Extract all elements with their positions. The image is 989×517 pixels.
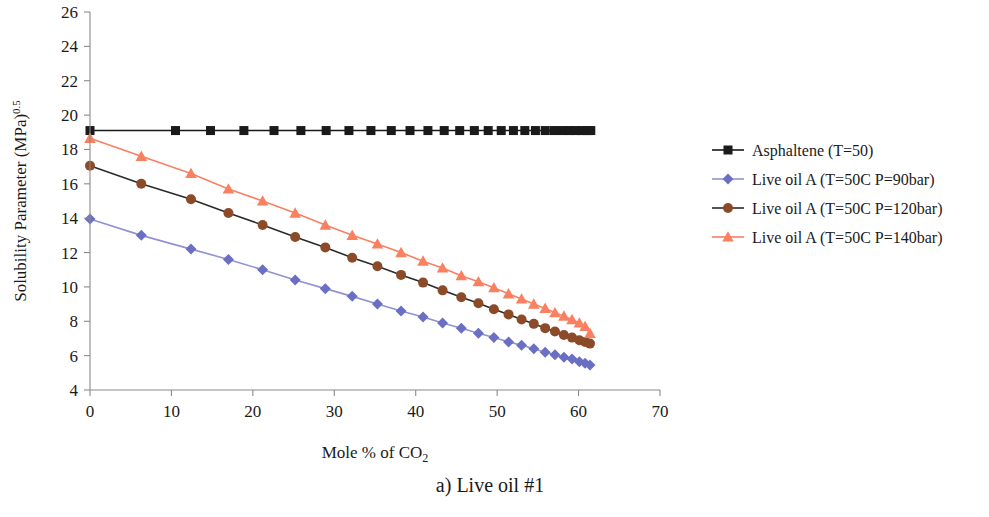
data-point-marker (488, 282, 500, 292)
series-3 (84, 132, 596, 337)
y-tick-label: 24 (61, 37, 79, 56)
data-point-marker (549, 349, 560, 360)
data-point-marker (528, 298, 540, 308)
data-point-marker (320, 283, 331, 294)
x-tick-label: 70 (652, 402, 669, 421)
data-point-marker (418, 278, 428, 288)
data-point-marker (136, 179, 146, 189)
data-point-marker (723, 203, 733, 213)
data-point-marker (540, 347, 551, 358)
data-point-marker (550, 327, 560, 337)
y-tick-label: 8 (70, 312, 79, 331)
data-point-marker (257, 264, 268, 275)
data-point-marker (396, 305, 407, 316)
y-tick-label: 26 (61, 3, 78, 22)
y-tick-label: 6 (70, 347, 79, 366)
data-point-marker (290, 275, 301, 286)
data-point-marker (516, 293, 528, 303)
data-point-marker (456, 270, 468, 280)
data-point-marker (290, 232, 300, 242)
legend-item-2: Live oil A (T=50C P=120bar) (712, 200, 942, 218)
axis-labels: 468101214161820222426010203040506070Mole… (10, 3, 669, 465)
legend: Asphaltene (T=50)Live oil A (T=50C P=90b… (712, 142, 942, 247)
data-point-marker (185, 244, 196, 255)
plot-area (84, 126, 596, 371)
data-point-marker (586, 126, 595, 135)
y-tick-label: 10 (61, 278, 78, 297)
legend-item-0: Asphaltene (T=50) (712, 142, 873, 160)
y-tick-label: 18 (61, 140, 78, 159)
data-point-marker (258, 220, 268, 230)
data-point-marker (206, 126, 215, 135)
data-point-marker (456, 292, 466, 302)
data-point-marker (504, 309, 514, 319)
data-point-marker (440, 126, 449, 135)
data-point-marker (540, 323, 550, 333)
data-point-marker (437, 317, 448, 328)
data-point-marker (387, 126, 396, 135)
y-tick-label: 12 (61, 244, 78, 263)
data-point-marker (528, 343, 539, 354)
data-point-marker (503, 288, 515, 298)
data-point-marker (539, 303, 551, 313)
data-point-marker (270, 126, 279, 135)
data-point-marker (503, 336, 514, 347)
data-point-marker (223, 208, 233, 218)
x-tick-label: 60 (570, 402, 587, 421)
data-point-marker (558, 352, 569, 363)
y-tick-label: 4 (70, 381, 79, 400)
data-point-marker (497, 126, 506, 135)
data-point-marker (417, 255, 429, 265)
x-tick-label: 40 (407, 402, 424, 421)
series-0 (86, 126, 596, 135)
data-point-marker (223, 254, 234, 265)
data-point-marker (516, 340, 527, 351)
x-tick-label: 0 (86, 402, 95, 421)
figure-live-oil-1: 468101214161820222426010203040506070Mole… (0, 0, 989, 517)
data-point-marker (517, 315, 527, 325)
legend-item-1: Live oil A (T=50C P=90bar) (712, 171, 934, 189)
caption-label: a) Live oil #1 (436, 474, 544, 497)
x-tick-label: 30 (326, 402, 343, 421)
data-point-marker (423, 126, 432, 135)
series-line (90, 138, 590, 333)
x-tick-label: 10 (163, 402, 180, 421)
data-point-marker (549, 307, 561, 317)
data-point-marker (473, 328, 484, 339)
legend-item-3: Live oil A (T=50C P=140bar) (712, 229, 942, 247)
data-point-marker (322, 126, 331, 135)
data-point-marker (520, 126, 529, 135)
y-tick-label: 14 (61, 209, 79, 228)
data-point-marker (136, 230, 147, 241)
data-point-marker (455, 126, 464, 135)
legend-label: Asphaltene (T=50) (752, 142, 873, 160)
x-tick-label: 20 (244, 402, 261, 421)
series-1 (85, 214, 596, 371)
data-point-marker (509, 126, 518, 135)
data-point-marker (438, 285, 448, 295)
legend-label: Live oil A (T=50C P=120bar) (752, 200, 942, 218)
data-point-marker (558, 310, 570, 320)
data-point-marker (724, 146, 733, 155)
y-axis-title: Solubility Parameter (MPa)0.5 (10, 100, 30, 302)
data-point-marker (456, 323, 467, 334)
series-2 (85, 161, 595, 349)
y-tick-label: 20 (61, 106, 78, 125)
data-point-marker (470, 126, 479, 135)
data-point-marker (366, 126, 375, 135)
data-point-marker (171, 126, 180, 135)
x-axis-title: Mole % of CO2 (322, 443, 429, 465)
data-point-marker (531, 126, 540, 135)
legend-label: Live oil A (T=50C P=140bar) (752, 229, 942, 247)
data-point-marker (289, 207, 301, 217)
data-point-marker (489, 304, 499, 314)
data-point-marker (296, 126, 305, 135)
solubility-parameter-chart: 468101214161820222426010203040506070Mole… (0, 0, 989, 517)
data-point-marker (344, 126, 353, 135)
data-point-marker (550, 126, 559, 135)
data-point-marker (418, 311, 429, 322)
series-line (90, 166, 590, 344)
data-point-marker (473, 298, 483, 308)
data-point-marker (529, 319, 539, 329)
y-tick-label: 16 (61, 175, 78, 194)
